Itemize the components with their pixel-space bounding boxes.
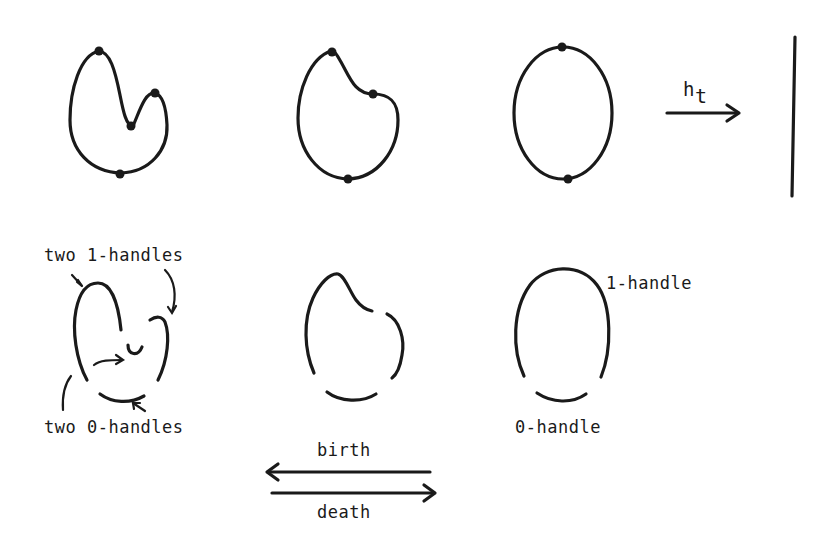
critical-point bbox=[95, 47, 104, 56]
label-1-handle: 1-handle bbox=[606, 273, 692, 293]
label-death: death bbox=[317, 502, 371, 522]
label-birth: birth bbox=[317, 440, 371, 460]
bottom-shape-1 bbox=[63, 270, 176, 411]
bottom-shape-2 bbox=[306, 274, 403, 400]
critical-point bbox=[344, 175, 353, 184]
critical-point bbox=[116, 170, 125, 179]
death-arrow bbox=[272, 485, 435, 501]
critical-point bbox=[558, 43, 567, 52]
bottom-shape-3 bbox=[516, 269, 609, 401]
label-two-0-handles: two 0-handles bbox=[44, 417, 184, 437]
top-shape-1 bbox=[70, 47, 167, 179]
label-0-handle: 0-handle bbox=[515, 417, 601, 437]
critical-point bbox=[151, 89, 160, 98]
handle-decomposition-diagram bbox=[0, 0, 838, 550]
critical-point bbox=[328, 48, 337, 57]
ht-label: ht bbox=[683, 78, 708, 106]
birth-arrow bbox=[267, 464, 430, 480]
vertical-line-target bbox=[792, 37, 795, 196]
critical-point bbox=[369, 90, 378, 99]
top-shape-2 bbox=[298, 48, 398, 184]
ht-label-subscript: t bbox=[695, 84, 708, 108]
critical-point bbox=[127, 122, 136, 131]
critical-point bbox=[564, 175, 573, 184]
label-two-1-handles: two 1-handles bbox=[44, 245, 184, 265]
top-shape-3 bbox=[514, 43, 612, 184]
ht-label-h: h bbox=[683, 78, 695, 100]
